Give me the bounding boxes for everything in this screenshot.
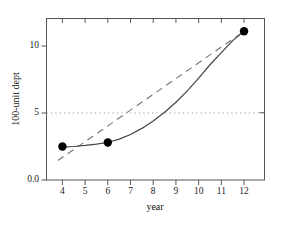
x-tick-label: 4 [60, 187, 65, 197]
x-tick-label: 8 [151, 187, 156, 197]
chart-figure: 4 5 6 7 8 9 10 11 12 0.0 5 10 year 100-u… [0, 0, 282, 229]
y-tick-marks [42, 46, 47, 180]
linear-trend-line [58, 31, 244, 160]
x-tick-marks-top [62, 19, 244, 24]
y-tick-label: 10 [30, 41, 40, 51]
data-point-markers [58, 27, 248, 151]
data-point [104, 138, 112, 146]
x-tick-label: 7 [128, 187, 133, 197]
x-tick-label: 5 [83, 187, 88, 197]
x-tick-label: 10 [194, 187, 204, 197]
x-axis-title: year [146, 201, 163, 212]
data-point [240, 27, 248, 35]
x-tick-label: 9 [174, 187, 179, 197]
x-tick-label: 12 [239, 187, 249, 197]
x-tick-label: 11 [217, 187, 226, 197]
axes-frame [47, 19, 265, 181]
x-tick-marks [62, 180, 244, 185]
y-axis-title: 100-unit dept [10, 72, 21, 126]
y-tick-label: 5 [34, 108, 39, 118]
data-point [58, 142, 66, 150]
fitted-curve-main [62, 31, 244, 147]
x-tick-label: 6 [105, 187, 110, 197]
y-tick-label: 0.0 [27, 175, 39, 185]
